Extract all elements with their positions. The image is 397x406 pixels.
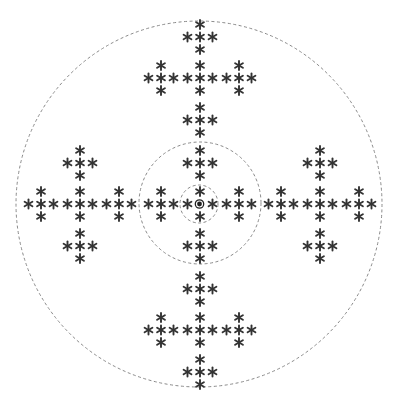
asterisk-icon — [316, 242, 324, 251]
asterisk-icon — [76, 171, 84, 180]
right-group — [223, 313, 256, 347]
center-group — [304, 187, 337, 221]
asterisk-icon — [196, 285, 204, 294]
asterisk-icon — [184, 33, 192, 42]
asterisk-icon — [304, 159, 312, 168]
asterisk-icon — [316, 229, 324, 238]
asterisk-icon — [157, 338, 165, 347]
center-group — [64, 187, 97, 221]
asterisk-icon — [329, 242, 337, 251]
asterisk-icon — [184, 242, 192, 251]
asterisk-icon — [115, 187, 123, 196]
left-group — [25, 187, 58, 221]
asterisk-icon — [64, 200, 72, 209]
asterisk-icon — [184, 200, 192, 209]
asterisk-icon — [64, 159, 72, 168]
right-group — [223, 61, 256, 95]
asterisk-icon — [235, 338, 243, 347]
asterisk-icon — [209, 116, 217, 125]
asterisk-icon — [235, 313, 243, 322]
asterisk-icon — [76, 187, 84, 196]
asterisk-icon — [170, 74, 178, 83]
asterisk-icon — [25, 200, 33, 209]
asterisk-icon — [316, 200, 324, 209]
asterisk-icon — [157, 326, 165, 335]
asterisk-icon — [329, 159, 337, 168]
asterisk-icon — [196, 86, 204, 95]
asterisk-icon — [235, 74, 243, 83]
asterisk-icon — [145, 200, 153, 209]
asterisk-icon — [37, 200, 45, 209]
asterisk-icon — [209, 200, 217, 209]
asterisk-icon — [157, 200, 165, 209]
asterisk-icon — [304, 242, 312, 251]
asterisk-icon — [235, 61, 243, 70]
asterisk-icon — [209, 33, 217, 42]
asterisk-icon — [184, 159, 192, 168]
asterisk-icon — [115, 212, 123, 221]
asterisk-icon — [157, 313, 165, 322]
asterisk-icon — [196, 272, 204, 281]
asterisk-icon — [157, 187, 165, 196]
asterisk-icon — [277, 187, 285, 196]
top-group — [64, 146, 97, 180]
right-cluster — [265, 146, 376, 263]
asterisk-icon — [235, 212, 243, 221]
asterisk-icon — [76, 146, 84, 155]
asterisk-icon — [157, 74, 165, 83]
asterisk-icon — [304, 200, 312, 209]
asterisk-icon — [76, 229, 84, 238]
asterisk-icon — [196, 212, 204, 221]
asterisk-icon — [184, 116, 192, 125]
asterisk-icon — [196, 159, 204, 168]
asterisk-icon — [209, 159, 217, 168]
asterisk-icon — [277, 200, 285, 209]
asterisk-icon — [157, 61, 165, 70]
asterisk-icon — [223, 200, 231, 209]
asterisk-icon — [128, 200, 136, 209]
asterisk-icon — [248, 74, 256, 83]
center-group — [184, 313, 217, 347]
asterisk-icon — [223, 74, 231, 83]
asterisk-icon — [196, 33, 204, 42]
asterisk-icon — [37, 212, 45, 221]
asterisk-icon — [196, 368, 204, 377]
asterisk-icon — [196, 45, 204, 54]
bottom-cluster — [145, 272, 256, 389]
asterisk-icon — [184, 368, 192, 377]
asterisk-icon — [76, 242, 84, 251]
asterisk-icon — [316, 212, 324, 221]
asterisk-icon — [316, 187, 324, 196]
asterisk-icon — [157, 212, 165, 221]
asterisk-icon — [145, 74, 153, 83]
asterisk-icon — [196, 297, 204, 306]
asterisk-icon — [355, 212, 363, 221]
bottom-group — [184, 229, 217, 263]
asterisk-icon — [76, 254, 84, 263]
asterisk-icon — [196, 74, 204, 83]
asterisk-icon — [248, 326, 256, 335]
asterisk-icon — [316, 171, 324, 180]
asterisk-icon — [329, 200, 337, 209]
asterisk-icon — [196, 187, 204, 196]
asterisk-icon — [196, 326, 204, 335]
asterisk-icon — [89, 200, 97, 209]
asterisk-icon — [209, 285, 217, 294]
asterisk-icon — [115, 200, 123, 209]
asterisk-icon — [196, 313, 204, 322]
asterisk-icon — [196, 229, 204, 238]
left-group — [145, 187, 178, 221]
top-group — [304, 146, 337, 180]
asterisk-icon — [184, 285, 192, 294]
asterisk-icon — [235, 200, 243, 209]
asterisk-icon — [37, 187, 45, 196]
center-group — [184, 61, 217, 95]
asterisk-icon — [235, 326, 243, 335]
asterisk-icon — [184, 74, 192, 83]
asterisk-icon — [196, 338, 204, 347]
asterisk-icon — [368, 200, 376, 209]
asterisk-icon — [89, 159, 97, 168]
right-group — [103, 187, 136, 221]
asterisk-icon — [196, 171, 204, 180]
asterisk-icon — [76, 159, 84, 168]
